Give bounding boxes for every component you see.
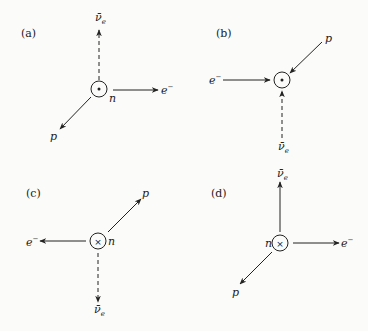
neutron-label: n xyxy=(265,237,272,250)
neutron-label: n xyxy=(108,235,115,248)
spin-out-dot-icon xyxy=(281,79,284,82)
antineutrino-label: ν̄e xyxy=(95,11,106,26)
electron-label: e− xyxy=(341,236,354,250)
proton-arrow xyxy=(60,97,91,129)
panel-label-b: (b) xyxy=(216,27,232,40)
electron-label: e− xyxy=(161,83,174,97)
beta-decay-diagram: (a) ν̄e n e− p (b) p e− ν̄e (c) p e− × n… xyxy=(0,0,368,331)
panel-c: (c) p e− × n ν̄e xyxy=(26,187,149,318)
proton-arrow xyxy=(290,42,322,73)
proton-label: p xyxy=(325,32,332,45)
proton-label: p xyxy=(232,286,239,299)
spin-in-cross-icon: × xyxy=(276,239,284,249)
panel-b: (b) p e− ν̄e xyxy=(209,27,332,155)
proton-arrow xyxy=(108,199,141,232)
antineutrino-label: ν̄e xyxy=(94,303,105,318)
proton-label: p xyxy=(50,130,57,143)
proton-label: p xyxy=(142,187,149,200)
panel-label-d: (d) xyxy=(211,187,227,200)
panel-label-a: (a) xyxy=(21,27,36,40)
panel-label-c: (c) xyxy=(26,187,41,200)
electron-label: e− xyxy=(26,235,39,249)
spin-out-dot-icon xyxy=(98,88,101,91)
spin-in-cross-icon: × xyxy=(94,237,102,247)
antineutrino-label: ν̄e xyxy=(277,167,288,182)
antineutrino-label: ν̄e xyxy=(278,140,289,155)
neutron-label: n xyxy=(109,92,116,105)
panel-d: (d) ν̄e n × e− p xyxy=(211,167,354,299)
panel-a: (a) ν̄e n e− p xyxy=(21,11,174,143)
proton-arrow xyxy=(240,252,272,284)
electron-label: e− xyxy=(209,73,222,87)
